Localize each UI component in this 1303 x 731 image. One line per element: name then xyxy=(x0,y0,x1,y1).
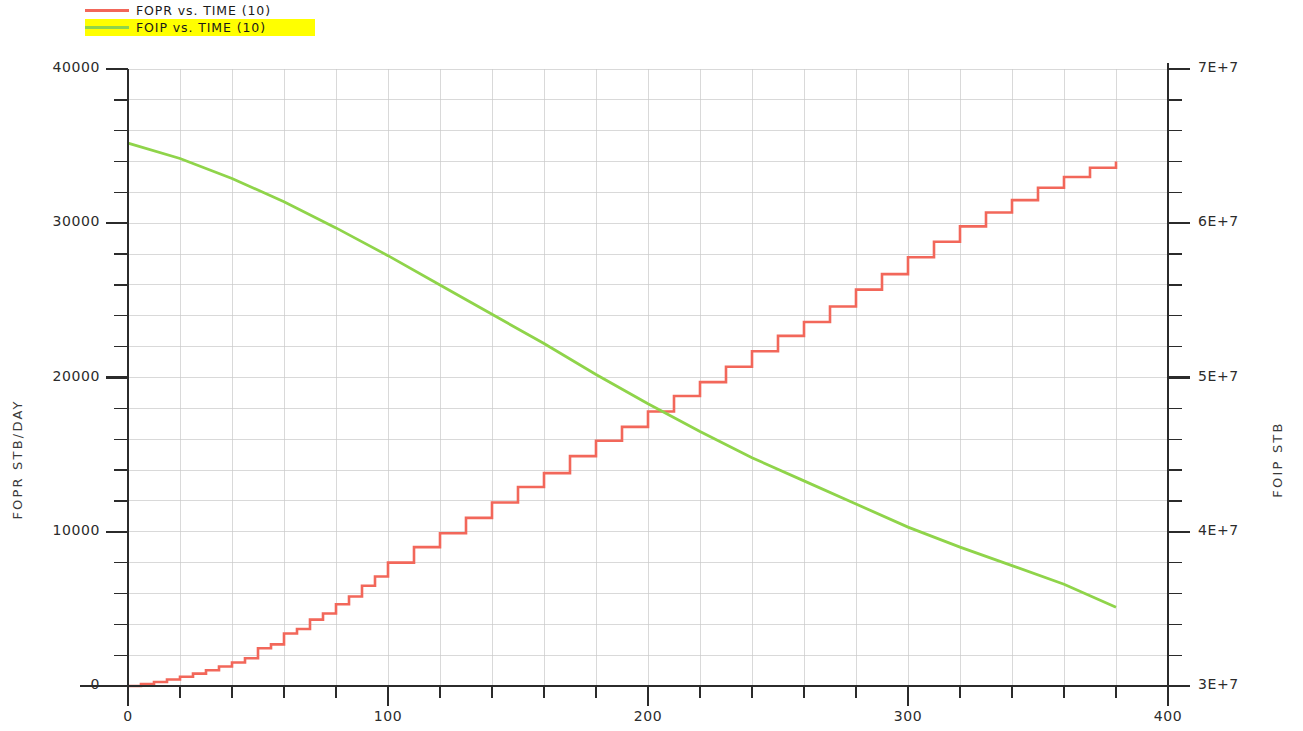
right-axis-title: FOIP STB xyxy=(1270,395,1285,525)
tick-label: 30000 xyxy=(10,213,100,229)
tick-label: 5E+7 xyxy=(1198,368,1239,384)
plot-area xyxy=(0,0,1303,731)
axis-lines-and-ticks xyxy=(80,63,1190,706)
tick-label: 100 xyxy=(348,708,428,724)
legend-swatch-foip xyxy=(85,26,129,29)
tick-label: 7E+7 xyxy=(1198,59,1239,75)
tick-label: 20000 xyxy=(10,368,100,384)
grid-lines xyxy=(128,69,1168,686)
tick-label: 200 xyxy=(608,708,688,724)
tick-label: 300 xyxy=(868,708,948,724)
legend-item-foip[interactable]: FOIP vs. TIME (10) xyxy=(85,19,315,36)
tick-label: 0 xyxy=(88,708,168,724)
tick-label: 40000 xyxy=(10,59,100,75)
legend-label-foip: FOIP vs. TIME (10) xyxy=(136,19,266,36)
tick-label: 0 xyxy=(10,676,100,692)
tick-label: 3E+7 xyxy=(1198,676,1239,692)
legend-swatch-fopr xyxy=(85,9,129,12)
tick-label: 4E+7 xyxy=(1198,522,1239,538)
tick-label: 6E+7 xyxy=(1198,213,1239,229)
tick-label: 400 xyxy=(1128,708,1208,724)
legend-item-fopr[interactable]: FOPR vs. TIME (10) xyxy=(85,2,315,19)
left-axis-title: FOPR STB/DAY xyxy=(10,395,25,525)
chart-figure: FOPR vs. TIME (10) FOIP vs. TIME (10) FO… xyxy=(0,0,1303,731)
series-lines xyxy=(128,143,1116,686)
chart-legend: FOPR vs. TIME (10) FOIP vs. TIME (10) xyxy=(85,2,315,36)
tick-label: 10000 xyxy=(10,522,100,538)
legend-label-fopr: FOPR vs. TIME (10) xyxy=(136,2,271,19)
